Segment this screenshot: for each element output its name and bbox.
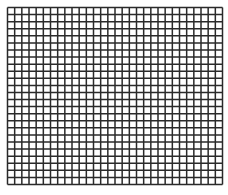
square-grid (6, 6, 224, 186)
